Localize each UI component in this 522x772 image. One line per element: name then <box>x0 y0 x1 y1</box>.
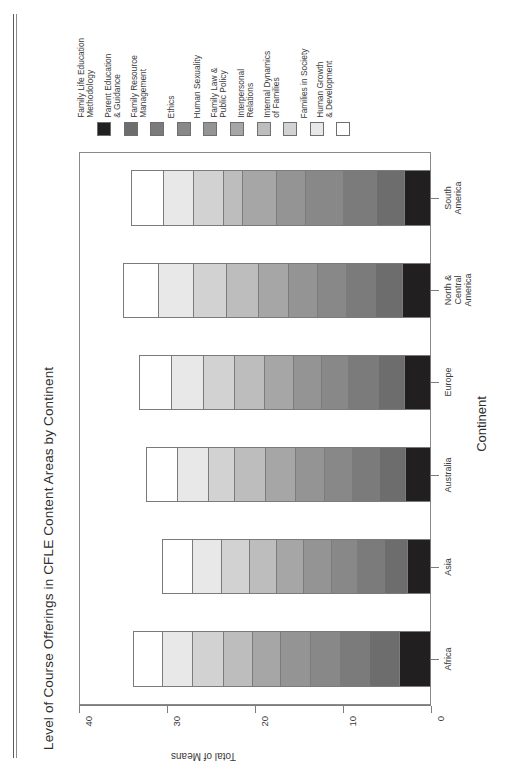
bar-segment <box>158 263 192 318</box>
bar-segment <box>252 631 280 686</box>
chart-title: Level of Course Offerings in CFLE Conten… <box>41 367 56 750</box>
bar-segment <box>324 447 352 502</box>
bar-segment <box>162 539 192 594</box>
bar-segment <box>375 263 402 318</box>
bar-segment <box>131 170 163 225</box>
bar-segment <box>162 631 192 686</box>
bar-segment <box>249 539 276 594</box>
bar-segment <box>288 263 316 318</box>
legend-item-label: Human Sexuality <box>193 55 202 118</box>
value-axis-tick <box>167 706 168 713</box>
legend-item-label: Family Law &Public Policy <box>210 68 229 118</box>
bar-segment <box>234 447 265 502</box>
bar-segment <box>203 355 234 410</box>
bar-segment <box>331 539 357 594</box>
legend: Family Life EducationMethodologyParent E… <box>96 8 364 136</box>
bar-segment <box>379 447 405 502</box>
bar-segment <box>163 170 193 225</box>
bar-segment <box>276 539 303 594</box>
legend-item-label: Parent Education& Guidance <box>104 54 123 118</box>
bar-segment <box>223 631 252 686</box>
bar-row <box>79 263 431 318</box>
bar-segment <box>223 170 242 225</box>
bar-row <box>79 539 431 594</box>
category-axis-title: Continent <box>474 396 489 452</box>
bar-segment <box>310 631 340 686</box>
bar-segment <box>352 447 379 502</box>
bar-segment <box>258 263 289 318</box>
legend-item-label: Internal Dynamicsof Families <box>263 51 282 118</box>
bar-segment <box>264 355 293 410</box>
bar-row <box>79 447 431 502</box>
bar-segment <box>139 355 172 410</box>
category-axis-tick-label: Australia <box>443 457 453 492</box>
value-axis-tick-label: 20 <box>259 716 270 727</box>
bar-segment <box>234 355 264 410</box>
category-axis-tick-label: North &CentralAmerica <box>443 274 473 307</box>
legend-swatch <box>310 122 324 136</box>
bar-segment <box>321 355 348 410</box>
category-axis-tick-label: Africa <box>443 647 453 670</box>
bar-segment <box>340 631 370 686</box>
legend-item-label: Ethics <box>166 95 175 118</box>
value-axis-tick <box>255 706 256 713</box>
legend-item-label: Families in Society <box>299 48 308 118</box>
bar-segment <box>293 355 321 410</box>
bar-segment <box>405 447 431 502</box>
legend-swatch <box>177 122 191 136</box>
stacked-bar <box>162 539 431 594</box>
bar-segment <box>146 447 177 502</box>
category-axis-tick <box>431 475 439 476</box>
bar-segment <box>357 539 383 594</box>
value-axis-tick-label: 30 <box>171 716 182 727</box>
bar-segment <box>226 263 258 318</box>
stacked-bar <box>146 447 431 502</box>
stacked-bar <box>131 170 431 225</box>
legend-item-label: Family Life EducationMethodology <box>77 38 96 118</box>
bar-segment <box>295 447 324 502</box>
category-axis-tick <box>431 567 439 568</box>
stacked-bar <box>139 355 431 410</box>
legend-swatch <box>203 122 217 136</box>
bar-segment <box>402 263 431 318</box>
bar-segment <box>407 539 431 594</box>
category-axis-tick <box>431 382 439 383</box>
stacked-bar <box>133 631 431 686</box>
bar-segment <box>404 170 431 225</box>
bar-segment <box>384 539 408 594</box>
legend-swatch <box>150 122 164 136</box>
value-axis-tick <box>79 706 80 713</box>
legend-item-label: Family ResourceManagement <box>130 55 149 118</box>
bar-row <box>79 170 431 225</box>
legend-swatch <box>230 122 244 136</box>
bar-segment <box>348 355 378 410</box>
bar-segment <box>133 631 162 686</box>
value-axis: 010203040 <box>79 705 431 708</box>
bar-segment <box>303 539 330 594</box>
bar-row <box>79 355 431 410</box>
stacked-bar <box>123 263 431 318</box>
value-axis-tick-label: 0 <box>435 716 446 721</box>
legend-swatch <box>283 122 297 136</box>
bar-segment <box>193 170 223 225</box>
bar-segment <box>208 447 234 502</box>
category-axis-tick-label: Europe <box>443 368 453 397</box>
bars-layer <box>79 152 431 705</box>
category-axis-tick <box>431 290 439 291</box>
bar-segment <box>399 631 431 686</box>
bar-segment <box>192 631 223 686</box>
value-axis-tick-label: 40 <box>83 716 94 727</box>
legend-swatch <box>336 122 350 136</box>
bar-segment <box>265 447 295 502</box>
legend-swatch <box>257 122 271 136</box>
category-axis-tick-label: Asia <box>443 558 453 576</box>
bar-segment <box>171 355 203 410</box>
bar-segment <box>276 170 305 225</box>
value-axis-tick <box>343 706 344 713</box>
bar-segment <box>369 631 399 686</box>
bar-segment <box>378 355 404 410</box>
legend-item-label: InterpersonalRelations <box>237 69 256 118</box>
bar-segment <box>221 539 249 594</box>
bar-segment <box>305 170 343 225</box>
category-axis-tick <box>431 198 439 199</box>
